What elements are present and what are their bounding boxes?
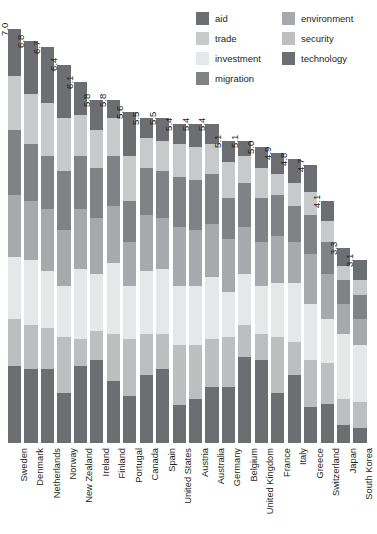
bar-segment-migration[interactable]: [222, 198, 235, 239]
stacked-bar[interactable]: [337, 248, 350, 443]
bar-column[interactable]: 6.4: [57, 0, 70, 444]
bar-segment-migration[interactable]: [271, 195, 284, 236]
bar-column[interactable]: 5.8: [90, 0, 103, 444]
bar-segment-security[interactable]: [205, 339, 218, 386]
bar-segment-environment[interactable]: [271, 236, 284, 283]
bar-segment-trade[interactable]: [255, 168, 268, 198]
bar-segment-investment[interactable]: [205, 277, 218, 339]
bar-column[interactable]: 5.5: [156, 0, 169, 444]
bar-segment-environment[interactable]: [205, 224, 218, 277]
bar-segment-technology[interactable]: [57, 393, 70, 443]
bar-segment-trade[interactable]: [337, 266, 350, 281]
stacked-bar[interactable]: [321, 201, 334, 443]
bar-segment-trade[interactable]: [57, 118, 70, 171]
bar-segment-trade[interactable]: [205, 144, 218, 174]
bar-segment-security[interactable]: [255, 334, 268, 361]
bar-column[interactable]: 4.9: [271, 0, 284, 444]
bar-segment-investment[interactable]: [222, 292, 235, 336]
bar-segment-investment[interactable]: [74, 269, 87, 340]
bar-column[interactable]: 4.1: [321, 0, 334, 444]
bar-segment-environment[interactable]: [24, 201, 37, 260]
bar-segment-environment[interactable]: [107, 206, 120, 262]
bar-segment-trade[interactable]: [140, 138, 153, 168]
bar-segment-technology[interactable]: [238, 357, 251, 443]
bar-segment-security[interactable]: [41, 328, 54, 369]
bar-segment-environment[interactable]: [140, 215, 153, 271]
bar-segment-investment[interactable]: [156, 269, 169, 334]
stacked-bar[interactable]: [74, 82, 87, 443]
bar-segment-investment[interactable]: [123, 286, 136, 339]
bar-column[interactable]: 4.7: [304, 0, 317, 444]
bar-segment-technology[interactable]: [156, 369, 169, 443]
bar-column[interactable]: 3.3: [337, 0, 350, 444]
bar-segment-security[interactable]: [337, 399, 350, 426]
bar-segment-security[interactable]: [123, 339, 136, 395]
bar-segment-trade[interactable]: [41, 103, 54, 156]
bar-segment-migration[interactable]: [8, 130, 21, 195]
bar-column[interactable]: 3.1: [353, 0, 366, 444]
bar-segment-security[interactable]: [271, 337, 284, 393]
bar-segment-investment[interactable]: [107, 263, 120, 334]
bar-segment-investment[interactable]: [337, 334, 350, 399]
bar-segment-technology[interactable]: [337, 425, 350, 443]
bar-segment-migration[interactable]: [140, 168, 153, 215]
bar-segment-technology[interactable]: [173, 405, 186, 443]
bar-segment-aid[interactable]: [321, 201, 334, 222]
bar-segment-migration[interactable]: [123, 201, 136, 242]
bar-segment-technology[interactable]: [255, 360, 268, 443]
bar-segment-technology[interactable]: [222, 387, 235, 443]
bar-segment-technology[interactable]: [189, 399, 202, 443]
bar-segment-technology[interactable]: [123, 396, 136, 443]
bar-segment-security[interactable]: [57, 337, 70, 393]
bar-segment-environment[interactable]: [156, 218, 169, 268]
bar-segment-investment[interactable]: [140, 271, 153, 333]
stacked-bar[interactable]: [107, 100, 120, 443]
bar-segment-environment[interactable]: [90, 218, 103, 274]
bar-segment-environment[interactable]: [8, 195, 21, 257]
bar-segment-investment[interactable]: [41, 271, 54, 327]
bar-segment-security[interactable]: [107, 334, 120, 381]
bar-segment-migration[interactable]: [107, 156, 120, 206]
bar-segment-security[interactable]: [74, 339, 87, 366]
stacked-bar[interactable]: [8, 29, 21, 443]
stacked-bar[interactable]: [189, 124, 202, 443]
bar-segment-investment[interactable]: [321, 319, 334, 363]
stacked-bar[interactable]: [222, 141, 235, 443]
bar-segment-trade[interactable]: [90, 130, 103, 168]
stacked-bar[interactable]: [238, 141, 251, 443]
bar-segment-trade[interactable]: [189, 147, 202, 180]
bar-column[interactable]: 6.8: [24, 0, 37, 444]
stacked-bar[interactable]: [57, 65, 70, 444]
bar-segment-migration[interactable]: [173, 177, 186, 227]
stacked-bar[interactable]: [271, 153, 284, 443]
bar-segment-environment[interactable]: [255, 242, 268, 286]
stacked-bar[interactable]: [156, 118, 169, 443]
bar-segment-migration[interactable]: [90, 168, 103, 218]
bar-segment-security[interactable]: [140, 334, 153, 375]
bar-column[interactable]: 7.0: [8, 0, 21, 444]
bar-segment-migration[interactable]: [189, 180, 202, 230]
bar-segment-trade[interactable]: [24, 94, 37, 144]
bar-segment-investment[interactable]: [255, 286, 268, 333]
bar-segment-migration[interactable]: [304, 215, 317, 253]
bar-segment-trade[interactable]: [123, 156, 136, 200]
bar-segment-migration[interactable]: [74, 156, 87, 209]
bar-column[interactable]: 4.8: [288, 0, 301, 444]
stacked-bar[interactable]: [353, 260, 366, 443]
bar-column[interactable]: 5.4: [205, 0, 218, 444]
bar-segment-aid[interactable]: [41, 47, 54, 103]
bar-segment-migration[interactable]: [353, 295, 366, 319]
bar-segment-environment[interactable]: [337, 304, 350, 334]
bar-segment-investment[interactable]: [288, 283, 301, 342]
bar-segment-technology[interactable]: [8, 366, 21, 443]
bar-segment-migration[interactable]: [24, 144, 37, 200]
bar-segment-security[interactable]: [173, 345, 186, 404]
bar-segment-trade[interactable]: [156, 141, 169, 171]
bar-segment-investment[interactable]: [173, 286, 186, 345]
bar-segment-trade[interactable]: [271, 174, 284, 195]
stacked-bar[interactable]: [41, 47, 54, 443]
bar-column[interactable]: 5.4: [173, 0, 186, 444]
bar-segment-migration[interactable]: [255, 198, 268, 242]
bar-segment-migration[interactable]: [41, 156, 54, 209]
stacked-bar[interactable]: [140, 118, 153, 443]
